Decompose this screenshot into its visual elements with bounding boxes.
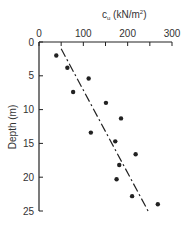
- y-axis-title: Depth (m): [7, 105, 18, 149]
- y-tick-label: 25: [23, 206, 35, 217]
- trend-line: [61, 49, 148, 211]
- data-point: [119, 116, 123, 120]
- data-point: [71, 90, 75, 94]
- y-tick-label: 10: [23, 104, 35, 115]
- axes: [39, 42, 172, 211]
- cu-depth-chart: cu (kN/m2) Depth (m) 0100200300 05101520…: [0, 0, 186, 227]
- y-axis-ticks: 0510152025: [23, 37, 43, 217]
- data-point: [104, 101, 108, 105]
- y-tick-label: 0: [28, 37, 34, 48]
- data-point: [89, 130, 93, 134]
- trend-line-segment: [61, 49, 148, 211]
- data-point: [113, 139, 117, 143]
- x-tick-label: 300: [164, 28, 181, 39]
- data-point: [133, 152, 137, 156]
- data-point: [54, 53, 58, 57]
- y-tick-label: 20: [23, 172, 35, 183]
- data-point: [156, 202, 160, 206]
- x-tick-label: 200: [119, 28, 136, 39]
- data-point: [86, 76, 90, 80]
- data-points: [54, 53, 160, 206]
- x-tick-label: 0: [36, 28, 42, 39]
- y-tick-label: 15: [23, 138, 35, 149]
- y-tick-label: 5: [28, 70, 34, 81]
- data-point: [130, 194, 134, 198]
- data-point: [65, 65, 69, 69]
- data-point: [117, 163, 121, 167]
- x-axis-ticks: 0100200300: [36, 28, 181, 46]
- data-point: [114, 177, 118, 181]
- x-axis-title: cu (kN/m2): [102, 9, 146, 21]
- x-tick-label: 100: [75, 28, 92, 39]
